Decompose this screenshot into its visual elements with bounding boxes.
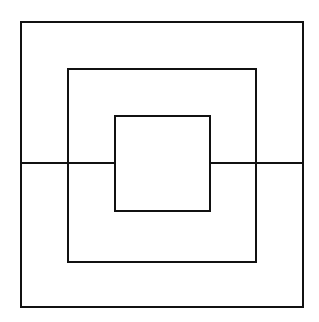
middle-square: [68, 69, 256, 262]
outer-square: [21, 22, 303, 307]
nested-squares-diagram: [0, 0, 319, 322]
inner-square: [115, 116, 210, 211]
